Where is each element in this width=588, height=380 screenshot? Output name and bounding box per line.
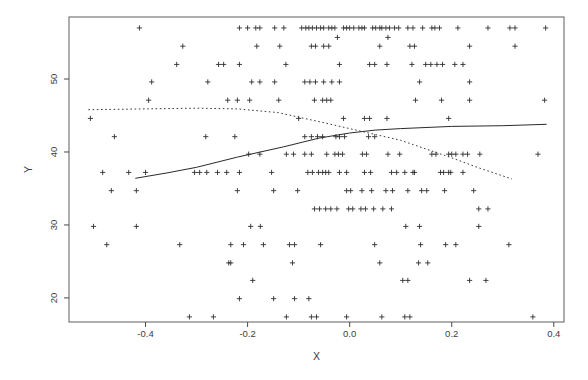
- data-point-plus-marker: [324, 152, 329, 157]
- data-point-plus-marker: [146, 98, 151, 103]
- data-point-plus-marker: [512, 25, 517, 30]
- data-point-plus-marker: [385, 152, 390, 157]
- data-point-plus-marker: [467, 44, 472, 49]
- data-point-plus-marker: [272, 25, 277, 30]
- data-point-plus-marker: [453, 152, 458, 157]
- data-point-plus-marker: [249, 79, 254, 84]
- data-point-plus-marker: [237, 296, 242, 301]
- solid-fit-curve: [135, 124, 546, 178]
- data-point-plus-marker: [235, 188, 240, 193]
- data-point-plus-marker: [425, 260, 430, 265]
- data-point-plus-marker: [180, 44, 185, 49]
- data-point-plus-marker: [348, 188, 353, 193]
- data-point-plus-marker: [326, 44, 331, 49]
- data-point-plus-marker: [362, 170, 367, 175]
- data-point-plus-marker: [284, 314, 289, 319]
- data-point-plus-marker: [310, 170, 315, 175]
- data-point-plus-marker: [269, 170, 274, 175]
- data-point-plus-marker: [306, 296, 311, 301]
- data-point-plus-marker: [477, 152, 482, 157]
- data-point-plus-marker: [485, 206, 490, 211]
- data-point-plus-marker: [350, 206, 355, 211]
- data-point-plus-marker: [416, 260, 421, 265]
- data-point-plus-marker: [261, 242, 266, 247]
- data-point-plus-marker: [467, 278, 472, 283]
- data-point-plus-marker: [177, 242, 182, 247]
- data-point-plus-marker: [216, 62, 221, 67]
- data-point-plus-marker: [384, 62, 389, 67]
- data-point-plus-marker: [313, 44, 318, 49]
- data-point-plus-marker: [410, 25, 415, 30]
- x-axis-tick-label: 0.0: [343, 328, 356, 339]
- data-point-plus-marker: [476, 224, 481, 229]
- data-point-plus-marker: [439, 98, 444, 103]
- y-axis-title: Y: [22, 166, 34, 173]
- data-point-plus-marker: [452, 62, 457, 67]
- data-point-plus-marker: [323, 206, 328, 211]
- data-point-plus-marker: [367, 116, 372, 121]
- data-point-plus-marker: [197, 170, 202, 175]
- x-axis-tick-label: 0.4: [547, 328, 560, 339]
- data-point-plus-marker: [235, 98, 240, 103]
- data-point-plus-marker: [302, 152, 307, 157]
- data-point-plus-marker: [530, 314, 535, 319]
- data-point-plus-marker: [372, 242, 377, 247]
- data-point-plus-marker: [512, 44, 517, 49]
- data-point-plus-marker: [368, 170, 373, 175]
- data-point-plus-marker: [134, 224, 139, 229]
- data-point-plus-marker: [317, 206, 322, 211]
- data-point-plus-marker: [91, 224, 96, 229]
- data-point-plus-marker: [418, 242, 423, 247]
- data-point-plus-marker: [232, 134, 237, 139]
- data-point-plus-marker: [335, 35, 340, 40]
- data-point-plus-marker: [302, 79, 307, 84]
- y-axis-tick-label: 50: [48, 74, 59, 85]
- data-point-plus-marker: [428, 62, 433, 67]
- data-point-plus-marker: [225, 98, 230, 103]
- data-point-plus-marker: [371, 206, 376, 211]
- data-point-plus-marker: [413, 98, 418, 103]
- data-point-plus-marker: [383, 188, 388, 193]
- data-point-plus-marker: [250, 278, 255, 283]
- data-point-plus-marker: [385, 35, 390, 40]
- data-point-plus-marker: [328, 206, 333, 211]
- data-point-plus-marker: [400, 278, 405, 283]
- data-point-plus-marker: [407, 314, 412, 319]
- data-point-plus-marker: [359, 188, 364, 193]
- data-point-plus-marker: [467, 98, 472, 103]
- x-axis-tick-label: -0.4: [137, 328, 153, 339]
- data-point-plus-marker: [362, 116, 367, 121]
- data-point-plus-marker: [309, 152, 314, 157]
- data-point-plus-marker: [109, 188, 114, 193]
- data-point-plus-marker: [276, 98, 281, 103]
- data-point-plus-marker: [277, 44, 282, 49]
- data-point-plus-marker: [420, 25, 425, 30]
- data-point-plus-marker: [407, 44, 412, 49]
- data-point-plus-marker: [344, 314, 349, 319]
- data-point-plus-marker: [284, 152, 289, 157]
- data-point-plus-marker: [295, 188, 300, 193]
- data-point-plus-marker: [187, 314, 192, 319]
- data-point-plus-marker: [433, 152, 438, 157]
- x-axis-title: X: [313, 350, 320, 362]
- data-point-plus-marker: [340, 152, 345, 157]
- data-point-plus-marker: [372, 62, 377, 67]
- data-point-plus-marker: [271, 296, 276, 301]
- data-point-plus-marker: [460, 170, 465, 175]
- data-point-plus-marker: [313, 79, 318, 84]
- x-axis-tick-label: -0.2: [239, 328, 255, 339]
- data-point-plus-marker: [402, 314, 407, 319]
- data-point-plus-marker: [440, 62, 445, 67]
- data-point-plus-marker: [387, 25, 392, 30]
- data-point-plus-marker: [364, 152, 369, 157]
- data-point-plus-marker: [377, 44, 382, 49]
- data-point-plus-marker: [377, 260, 382, 265]
- data-point-plus-marker: [228, 242, 233, 247]
- data-point-plus-marker: [314, 314, 319, 319]
- data-point-plus-marker: [281, 25, 286, 30]
- data-point-plus-marker: [143, 170, 148, 175]
- data-point-plus-marker: [321, 44, 326, 49]
- data-point-plus-marker: [409, 62, 414, 67]
- data-point-plus-marker: [241, 242, 246, 247]
- data-point-plus-marker: [283, 62, 288, 67]
